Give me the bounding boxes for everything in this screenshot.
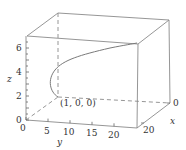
3d-curve-plot: 0 2 4 6 z 0 5 10 15 20 y 0 20 x (1, 0, 0…	[0, 0, 186, 150]
y-axis-label: y	[56, 137, 63, 147]
y-axis-ticks	[26, 117, 114, 126]
y-tick-10: 10	[63, 127, 75, 137]
space-curve	[50, 43, 137, 97]
z-tick-4: 4	[16, 67, 22, 77]
y-tick-15: 15	[86, 128, 98, 138]
y-tick-20: 20	[108, 130, 120, 140]
box-edges	[26, 13, 170, 128]
x-axis-label: x	[170, 116, 175, 126]
point-annotation: (1, 0, 0)	[60, 98, 96, 108]
z-tick-2: 2	[16, 91, 22, 101]
hidden-box-edges	[26, 13, 170, 120]
z-axis-label: z	[6, 74, 12, 84]
x-tick-0: 0	[173, 98, 179, 108]
y-tick-5: 5	[44, 126, 50, 136]
y-tick-0: 0	[20, 123, 26, 133]
x-tick-20: 20	[143, 125, 155, 135]
z-axis-ticks	[26, 42, 29, 120]
z-tick-6: 6	[16, 43, 22, 53]
